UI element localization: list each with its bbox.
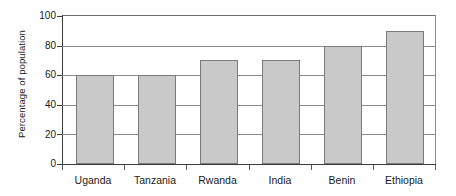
bar-uganda xyxy=(76,75,114,164)
bar-chart-figure: Percentage of population 0 20 40 60 80 1… xyxy=(0,0,456,196)
plot-frame-top xyxy=(62,15,436,16)
y-tick-label-80: 80 xyxy=(30,41,56,51)
category-tick-6 xyxy=(435,165,436,170)
gridline-80 xyxy=(62,46,436,47)
y-axis-line xyxy=(62,15,63,165)
x-tick-label-india: India xyxy=(249,174,311,186)
category-tick-0 xyxy=(62,165,63,170)
x-tick-label-tanzania: Tanzania xyxy=(124,174,186,186)
bar-rwanda xyxy=(200,60,238,164)
category-tick-5 xyxy=(373,165,374,170)
gridline-20 xyxy=(62,134,436,135)
y-tick-label-20: 20 xyxy=(30,130,56,140)
bar-benin xyxy=(324,46,362,164)
gridline-40 xyxy=(62,105,436,106)
category-tick-3 xyxy=(249,165,250,170)
x-tick-label-uganda: Uganda xyxy=(62,174,124,186)
y-tick-label-60: 60 xyxy=(30,70,56,80)
y-tick-label-0: 0 xyxy=(30,159,56,169)
x-tick-label-ethiopia: Ethiopia xyxy=(373,174,435,186)
category-tick-4 xyxy=(311,165,312,170)
y-tick-label-40: 40 xyxy=(30,100,56,110)
y-axis-tick-labels: 0 20 40 60 80 100 xyxy=(26,0,56,196)
y-tick-label-100: 100 xyxy=(30,11,56,21)
category-tick-1 xyxy=(124,165,125,170)
bar-india xyxy=(262,60,300,164)
category-tick-2 xyxy=(186,165,187,170)
x-tick-label-rwanda: Rwanda xyxy=(186,174,249,186)
bar-ethiopia xyxy=(386,31,424,164)
x-tick-label-benin: Benin xyxy=(311,174,373,186)
gridline-60 xyxy=(62,75,436,76)
plot-frame-right xyxy=(435,15,436,165)
bar-tanzania xyxy=(138,75,176,164)
